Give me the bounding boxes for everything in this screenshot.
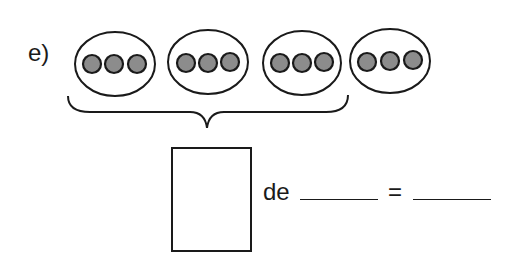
dot-icon	[83, 55, 101, 73]
dot-icon	[199, 54, 217, 72]
dot-icon	[105, 55, 123, 73]
dot-icon	[404, 51, 422, 69]
dot-icon	[221, 53, 239, 71]
grouping-figure	[0, 0, 528, 262]
equals-sign: =	[388, 180, 402, 204]
dot-icon	[128, 55, 146, 73]
dot-icon	[293, 54, 311, 72]
dot-icon	[177, 54, 195, 72]
dot-icon	[358, 53, 376, 71]
group-1	[75, 32, 155, 96]
group-2	[168, 30, 248, 94]
answer-blank-1[interactable]	[300, 199, 378, 200]
dot-icon	[315, 53, 333, 71]
connector-text: de	[263, 180, 290, 204]
fraction-answer-box[interactable]	[171, 147, 252, 252]
curly-brace-icon	[68, 95, 348, 128]
dot-icon	[381, 52, 399, 70]
dot-icon	[271, 54, 289, 72]
group-3	[263, 31, 341, 95]
answer-blank-2[interactable]	[413, 199, 491, 200]
group-4	[350, 29, 430, 93]
